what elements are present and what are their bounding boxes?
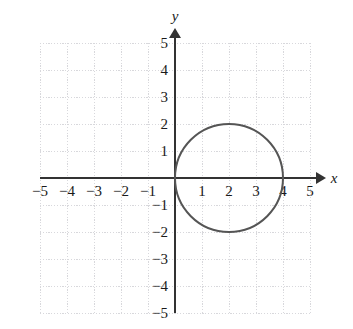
y-tick-label: −4 <box>152 278 168 294</box>
x-tick-label: −4 <box>59 183 75 199</box>
y-tick-label: −2 <box>152 224 168 240</box>
y-tick-label: −5 <box>152 305 168 321</box>
graph-figure: −5−4−3−2−11234554321−1−2−3−4−5 x y <box>0 0 353 329</box>
x-tick-label: −3 <box>86 183 102 199</box>
y-tick-label: 2 <box>161 116 169 132</box>
x-tick-label: 2 <box>225 183 233 199</box>
x-tick-label: −5 <box>32 183 48 199</box>
y-tick-label: 5 <box>161 35 169 51</box>
coordinate-plane-graph: −5−4−3−2−11234554321−1−2−3−4−5 x y <box>0 0 353 329</box>
y-tick-label: −3 <box>152 251 168 267</box>
x-tick-label: 1 <box>198 183 206 199</box>
x-axis-label: x <box>330 170 338 186</box>
y-tick-label: 3 <box>161 89 169 105</box>
x-tick-label: 5 <box>306 183 314 199</box>
y-tick-label: −1 <box>152 197 168 213</box>
y-tick-label: 1 <box>161 143 169 159</box>
y-axis-label: y <box>170 8 179 24</box>
y-tick-label: 4 <box>161 62 169 78</box>
x-tick-label: 3 <box>252 183 260 199</box>
x-tick-label: −2 <box>113 183 129 199</box>
